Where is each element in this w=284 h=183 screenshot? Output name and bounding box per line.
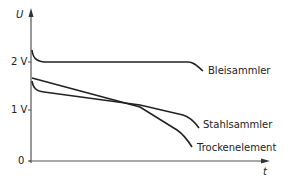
tick-label-0: 0 bbox=[18, 156, 24, 166]
x-axis-arrow-icon bbox=[261, 159, 270, 164]
series-label-trockenelement: Trockenelement bbox=[197, 143, 276, 153]
curve-bleisammler bbox=[32, 50, 203, 71]
y-axis-arrow-icon bbox=[29, 8, 34, 17]
tick-label-1v: 1 V bbox=[11, 105, 27, 115]
series-label-stahlsammler: Stahlsammler bbox=[203, 120, 272, 130]
tick-label-2v: 2 V bbox=[11, 57, 27, 67]
x-axis-label: t bbox=[263, 167, 267, 177]
series-label-bleisammler: Bleisammler bbox=[208, 66, 270, 76]
discharge-curve-diagram bbox=[0, 0, 284, 183]
y-axis-label: U bbox=[16, 10, 23, 20]
curve-stahlsammler bbox=[32, 81, 199, 128]
curve-trockenelement bbox=[32, 78, 192, 147]
